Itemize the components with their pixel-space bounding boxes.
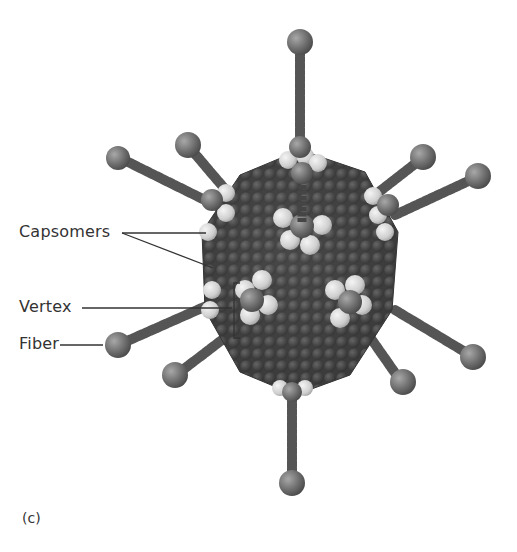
capsid: [199, 136, 399, 402]
label-fiber: Fiber: [19, 334, 59, 353]
adenovirus-diagram: Capsomers Vertex Fiber (c): [0, 0, 517, 552]
virus-illustration: [0, 0, 517, 552]
panel-label: (c): [22, 510, 41, 526]
label-capsomers: Capsomers: [19, 222, 110, 241]
label-vertex: Vertex: [19, 297, 72, 316]
